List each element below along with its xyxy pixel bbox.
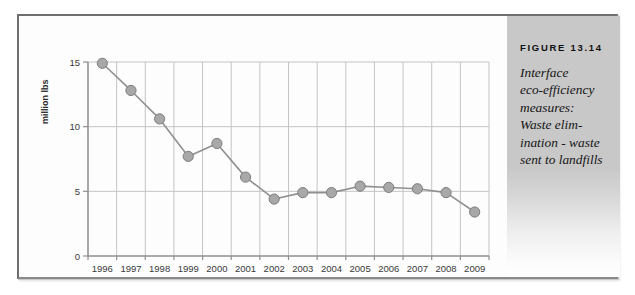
- x-tick-label: 1999: [178, 263, 199, 274]
- caption-line: eco-efficiency: [520, 81, 616, 98]
- data-point-marker[interactable]: [355, 181, 365, 191]
- x-tick-label: 1997: [120, 263, 141, 274]
- figure-caption: Interfaceeco-efficiencymeasures:Waste el…: [520, 64, 616, 168]
- x-tick-label: 2004: [321, 263, 342, 274]
- y-tick-label: 10: [69, 121, 80, 132]
- data-point-marker[interactable]: [441, 188, 451, 198]
- data-point-marker[interactable]: [97, 58, 107, 68]
- data-point-marker[interactable]: [470, 207, 480, 217]
- y-tick-label: 0: [75, 251, 80, 262]
- data-point-marker[interactable]: [412, 184, 422, 194]
- caption-line: measures:: [520, 99, 616, 116]
- chart-container: 0510151996199719981999200020012002200320…: [19, 16, 507, 277]
- data-point-marker[interactable]: [126, 85, 136, 95]
- data-point-marker[interactable]: [240, 172, 250, 182]
- caption-line: ination - waste: [520, 134, 616, 151]
- x-tick-label: 1998: [149, 263, 170, 274]
- y-tick-label: 5: [75, 186, 80, 197]
- data-point-marker[interactable]: [326, 188, 336, 198]
- y-axis-title: million lbs: [40, 79, 50, 124]
- x-tick-label: 2005: [350, 263, 371, 274]
- x-tick-label: 2003: [292, 263, 313, 274]
- x-tick-label: 2002: [264, 263, 285, 274]
- data-point-marker[interactable]: [269, 194, 279, 204]
- data-point-marker[interactable]: [183, 151, 193, 161]
- figure-frame: 0510151996199719981999200020012002200320…: [17, 14, 618, 279]
- data-point-marker[interactable]: [384, 182, 394, 192]
- caption-line: sent to landfills: [520, 151, 616, 168]
- data-point-marker[interactable]: [155, 114, 165, 124]
- x-tick-label: 2008: [435, 263, 456, 274]
- y-tick-label: 15: [69, 57, 80, 68]
- line-chart: 0510151996199719981999200020012002200320…: [19, 16, 507, 277]
- caption-line: Waste elim-: [520, 116, 616, 133]
- x-tick-label: 2001: [235, 263, 256, 274]
- x-tick-label: 2006: [378, 263, 399, 274]
- caption-line: Interface: [520, 64, 616, 81]
- x-tick-label: 2009: [464, 263, 485, 274]
- x-tick-label: 2007: [407, 263, 428, 274]
- figure-number: FIGURE 13.14: [520, 42, 603, 53]
- x-tick-label: 2000: [206, 263, 227, 274]
- figure-root: 0510151996199719981999200020012002200320…: [0, 0, 635, 295]
- caption-panel: FIGURE 13.14 Interfaceeco-efficiencymeas…: [507, 16, 620, 277]
- x-tick-label: 1996: [92, 263, 113, 274]
- data-point-marker[interactable]: [212, 138, 222, 148]
- data-point-marker[interactable]: [298, 188, 308, 198]
